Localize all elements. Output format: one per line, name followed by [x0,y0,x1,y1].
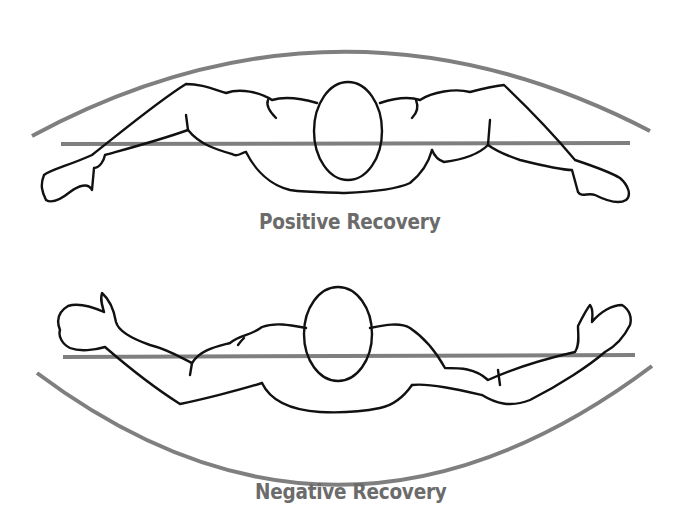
positive-arc [32,52,650,136]
negative-recovery-figure [37,287,652,485]
head [314,82,382,180]
recovery-diagram [0,0,678,526]
head [304,287,372,381]
positive-recovery-figure [32,52,650,202]
negative-horizontal-line [63,355,635,357]
negative-recovery-label: Negative Recovery [255,480,447,504]
negative-swimmer [58,287,631,412]
positive-recovery-label: Positive Recovery [259,210,440,234]
